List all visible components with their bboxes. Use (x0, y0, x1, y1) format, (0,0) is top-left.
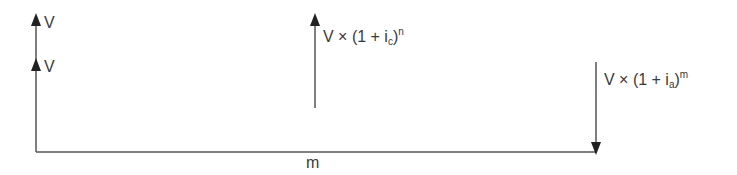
upper-left-arrowhead-icon (31, 13, 41, 26)
lower-left-label: V (44, 58, 55, 76)
right-label-superscript: m (680, 69, 688, 80)
axis-label: m (306, 154, 319, 172)
right-arrowhead-icon (591, 142, 601, 155)
upper-left-label: V (44, 14, 55, 32)
axis-label-text: m (306, 154, 319, 171)
middle-label-superscript: n (398, 26, 404, 37)
middle-arrow-label: V × (1 + ic)n (323, 23, 404, 51)
lower-left-arrowhead-icon (31, 58, 41, 71)
right-label-main: V × (1 + i (604, 71, 669, 88)
middle-arrowhead-icon (310, 13, 320, 26)
lower-left-value: V (44, 58, 55, 75)
middle-label-main: V × (1 + i (323, 28, 388, 45)
right-arrow-label: V × (1 + ia)m (604, 66, 688, 94)
upper-left-value: V (44, 14, 55, 31)
